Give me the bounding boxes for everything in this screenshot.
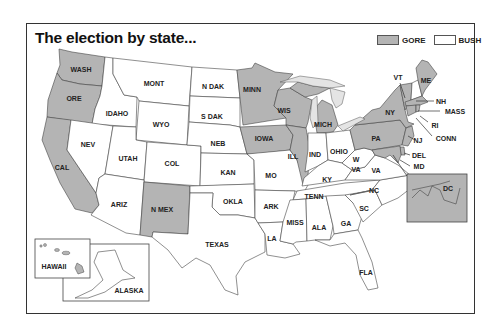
label-sc: SC — [359, 205, 369, 212]
label-iowa: IOWA — [255, 135, 274, 142]
label-ore: ORE — [66, 95, 82, 102]
label-ga: GA — [341, 220, 352, 227]
label-nev: NEV — [81, 141, 96, 148]
label-mont: MONT — [144, 80, 165, 87]
label-del: DEL — [412, 152, 427, 159]
label-ark: ARK — [263, 203, 278, 210]
label-ariz: ARIZ — [111, 201, 128, 208]
leader-md — [400, 160, 410, 166]
label-ri: RI — [432, 122, 439, 129]
label-w-va-line1: W — [353, 156, 360, 163]
label-fla: FLA — [359, 269, 373, 276]
label-hawaii: HAWAII — [42, 263, 67, 270]
label-nj: NJ — [414, 137, 423, 144]
label-nh: NH — [436, 98, 446, 105]
label-w-va-line2: VA — [351, 166, 360, 173]
label-la: LA — [267, 235, 276, 242]
label-ill: ILL — [288, 153, 299, 160]
label-alaska: ALASKA — [114, 287, 143, 294]
label-tenn: TENN — [304, 193, 323, 200]
state-conn[interactable] — [406, 105, 416, 116]
label-md: MD — [414, 163, 425, 170]
label-col: COL — [165, 160, 181, 167]
label-miss: MISS — [286, 219, 303, 226]
label-wash: WASH — [71, 66, 92, 73]
label-cal: CAL — [55, 164, 70, 171]
label-conn: CONN — [436, 135, 457, 142]
label-nc: NC — [369, 187, 379, 194]
label-mich: MICH — [314, 121, 332, 128]
label-wyo: WYO — [153, 121, 170, 128]
label-n-dak: N DAK — [202, 83, 224, 90]
hawaii-island — [44, 244, 47, 247]
label-okla: OKLA — [223, 198, 243, 205]
label-s-dak: S DAK — [201, 113, 223, 120]
label-mass: MASS — [445, 108, 466, 115]
label-wis: WIS — [277, 107, 291, 114]
label-n-mex: N MEX — [151, 206, 174, 213]
label-mo: MO — [265, 172, 277, 179]
label-idaho: IDAHO — [106, 110, 129, 117]
label-ala: ALA — [312, 224, 326, 231]
label-ohio: OHIO — [330, 148, 348, 155]
label-dc: DC — [443, 185, 453, 192]
label-texas: TEXAS — [205, 241, 229, 248]
label-kan: KAN — [220, 169, 235, 176]
label-vt: VT — [394, 74, 404, 81]
leader-ri — [420, 116, 428, 122]
label-me: ME — [421, 77, 432, 84]
label-pa: PA — [371, 135, 380, 142]
label-ind: IND — [309, 151, 321, 158]
hawaii-island — [55, 249, 60, 252]
label-neb: NEB — [211, 140, 226, 147]
hawaii-island — [62, 251, 70, 255]
hawaii-island — [40, 245, 42, 247]
label-ky: KY — [322, 176, 332, 183]
label-ny: NY — [385, 109, 395, 116]
label-va: VA — [371, 167, 380, 174]
dc-inset[interactable] — [407, 174, 467, 222]
label-utah: UTAH — [119, 155, 138, 162]
label-minn: MINN — [243, 86, 261, 93]
us-map: WASH ORE CAL IDAHO NEV MONT WYO UTAH COL… — [0, 0, 500, 331]
leader-conn — [416, 118, 432, 136]
